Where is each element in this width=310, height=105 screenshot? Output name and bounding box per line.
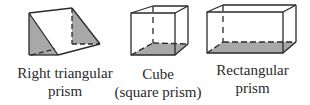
rectangular-prism-figure	[207, 5, 296, 53]
label-line: Rectangular	[205, 61, 300, 79]
label-line: Cube	[108, 65, 208, 83]
right-triangular-prism-figure	[29, 8, 100, 55]
label-right-triangular-prism: Right triangular prism	[5, 64, 125, 100]
cube-bottom-face	[131, 43, 188, 55]
cube-figure	[131, 6, 188, 55]
label-cube: Cube (square prism)	[108, 65, 208, 101]
label-line: prism	[5, 82, 125, 100]
label-rectangular-prism: Rectangular prism	[205, 61, 300, 97]
label-line: Right triangular	[5, 64, 125, 82]
label-line: (square prism)	[108, 83, 208, 101]
label-line: prism	[205, 79, 300, 97]
